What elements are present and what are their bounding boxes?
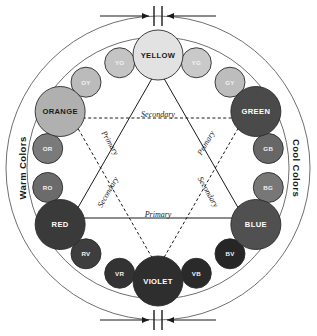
tertiary-swatch-gb[interactable]: GB [253,134,283,164]
swatch-disc [33,134,63,164]
tertiary-swatch-or[interactable]: OR [33,134,63,164]
label-secondary-left: Secondary [96,175,121,209]
tertiary-swatch-group: YGGYGBBGBVVBVRRVROOROYYO [33,48,284,289]
swatch-disc [133,30,183,80]
cool-colors-label: Cool Colors [291,139,302,197]
label-primary-bottom: Primary [144,210,172,219]
swatch-disc [33,172,63,202]
tertiary-swatch-bg[interactable]: BG [253,172,283,202]
tertiary-swatch-vr[interactable]: VR [105,258,135,288]
swatch-disc [231,200,281,250]
hue-swatch-orange[interactable]: ORANGE [35,87,85,137]
warm-colors-label: Warm Colors [17,136,28,199]
swatch-disc [35,87,85,137]
swatch-disc [181,258,211,288]
swatch-disc [253,172,283,202]
tertiary-swatch-ro[interactable]: RO [33,172,63,202]
label-secondary-top: Secondary [141,110,175,119]
tertiary-swatch-yg[interactable]: YG [181,48,211,78]
hue-swatch-red[interactable]: RED [35,200,85,250]
hue-swatch-green[interactable]: GREEN [231,87,281,137]
tertiary-swatch-yo[interactable]: YO [105,48,135,78]
major-swatch-group: YELLOWGREENBLUEVIOLETREDORANGE [35,30,281,306]
swatch-disc [231,87,281,137]
hue-swatch-yellow[interactable]: YELLOW [133,30,183,80]
swatch-disc [133,256,183,306]
hue-swatch-blue[interactable]: BLUE [231,200,281,250]
triangle-edge-labels: Secondary Primary Primary Primary Second… [96,110,221,219]
label-primary-right: Primary [195,129,217,158]
color-wheel-figure: Secondary Primary Primary Primary Second… [0,0,317,336]
tertiary-swatch-vb[interactable]: VB [181,258,211,288]
swatch-disc [35,200,85,250]
swatch-disc [253,134,283,164]
swatch-disc [105,48,135,78]
swatch-disc [105,258,135,288]
hue-swatch-violet[interactable]: VIOLET [133,256,183,306]
color-wheel-canvas: Secondary Primary Primary Primary Second… [0,0,317,336]
swatch-disc [181,48,211,78]
